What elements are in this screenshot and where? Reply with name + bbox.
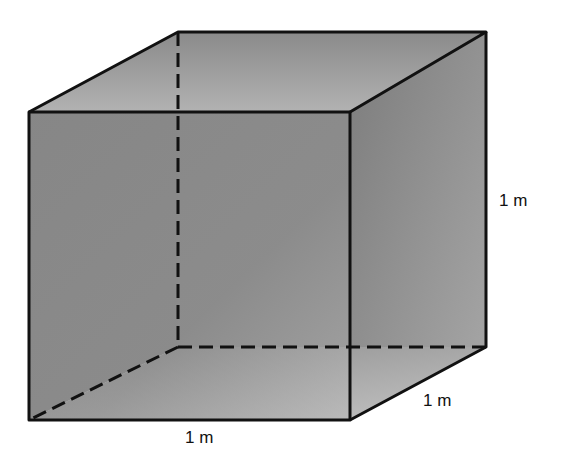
depth-label: 1 m bbox=[423, 391, 451, 410]
height-label: 1 m bbox=[499, 191, 527, 210]
cube-diagram: 1 m 1 m 1 m bbox=[0, 0, 570, 465]
cube-faces bbox=[29, 32, 486, 420]
front-face bbox=[29, 112, 350, 420]
width-label: 1 m bbox=[185, 428, 213, 447]
